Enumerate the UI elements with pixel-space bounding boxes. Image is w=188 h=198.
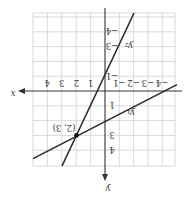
labels: x y 4 3 2 1 −1 −2 −3 −4 −4 −3 −1 1 3 4 y…: [10, 26, 168, 194]
x-tick-1: 1: [88, 78, 93, 88]
y-axis-label: y: [105, 184, 111, 194]
series-label-y1: y₁: [127, 108, 136, 118]
point-label: (2, 3): [53, 123, 76, 133]
x-tick-neg3: −3: [142, 78, 155, 88]
y-axis-arrow-icon: [102, 174, 108, 181]
x-tick-3: 3: [59, 78, 64, 88]
x-tick-neg4: −4: [156, 78, 169, 88]
series-label-y2: y₂: [124, 41, 134, 51]
x-axis-arrow-icon: [18, 88, 25, 94]
line-chart: x y 4 3 2 1 −1 −2 −3 −4 −4 −3 −1 1 3 4 y…: [0, 0, 188, 198]
x-tick-4: 4: [45, 78, 50, 88]
y-tick-neg3: −3: [106, 41, 119, 51]
y-tick-neg1: −1: [106, 71, 119, 81]
y-tick-4: 4: [109, 145, 114, 155]
y-tick-3: 3: [109, 130, 114, 140]
grid: [33, 13, 175, 166]
y-tick-1: 1: [109, 100, 114, 110]
x-tick-neg2: −2: [127, 78, 140, 88]
y-tick-neg4: −4: [106, 26, 119, 36]
x-tick-2: 2: [73, 78, 78, 88]
x-axis-label: x: [10, 89, 15, 99]
line-y2: [62, 13, 134, 166]
